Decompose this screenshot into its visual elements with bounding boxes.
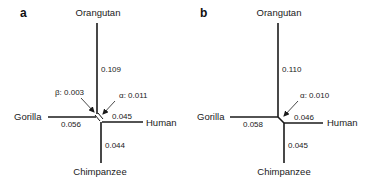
internal-branch-alpha-b (278, 117, 284, 123)
taxon-human-b: Human (327, 117, 358, 128)
taxon-human-a: Human (146, 117, 177, 128)
branch-length-human-a: 0.045 (112, 112, 133, 121)
branch-length-gorilla-b: 0.058 (243, 120, 264, 129)
branch-length-orangutan-b: 0.110 (282, 65, 302, 74)
panel-b-label: b (200, 6, 207, 20)
taxon-gorilla-a: Gorilla (14, 111, 42, 122)
taxon-chimpanzee-b: Chimpanzee (257, 166, 310, 177)
panel-b: b Orangutan 0.110 Gorilla 0.058 Human 0.… (197, 6, 358, 177)
panel-a: a Orangutan 0.109 Gorilla 0.056 Human 0.… (14, 6, 177, 177)
taxon-orangutan-b: Orangutan (257, 7, 302, 18)
taxon-gorilla-b: Gorilla (197, 111, 225, 122)
branch-length-chimpanzee-b: 0.045 (288, 141, 309, 150)
alpha-annotation-a: α: 0.011 (119, 91, 148, 100)
panel-a-label: a (20, 6, 27, 20)
branch-length-chimpanzee-a: 0.044 (105, 141, 126, 150)
internal-branch-alpha-a (98, 113, 103, 119)
internal-branch-beta-a (95, 115, 100, 121)
alpha-annotation-b: α: 0.010 (300, 91, 330, 100)
taxon-orangutan-a: Orangutan (76, 7, 121, 18)
beta-annotation-a: β: 0.003 (55, 88, 85, 97)
branch-length-human-b: 0.046 (294, 113, 315, 122)
phylogenetic-trees-figure: a Orangutan 0.109 Gorilla 0.056 Human 0.… (0, 0, 376, 185)
branch-length-gorilla-a: 0.056 (61, 120, 82, 129)
beta-arrow-icon (81, 98, 94, 112)
taxon-chimpanzee-a: Chimpanzee (73, 166, 126, 177)
branch-length-orangutan-a: 0.109 (101, 65, 122, 74)
